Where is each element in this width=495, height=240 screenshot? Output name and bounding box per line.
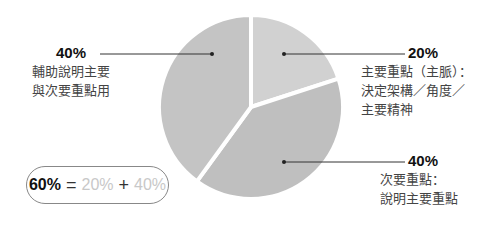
leader-dot-20 [282, 52, 286, 56]
leader-dot-40-right [282, 160, 286, 164]
formula-plus: + [119, 175, 130, 196]
label-secondary-line1: 次要重點： [380, 170, 495, 189]
label-secondary-pct: 40% [380, 151, 495, 170]
formula-box: 60% = 20% + 40% [26, 166, 169, 204]
label-main-line1: 主要重點（主脈）： [361, 62, 491, 81]
formula-a: 20% [81, 176, 113, 194]
label-main-line2: 決定架構／角度／ [361, 81, 491, 100]
formula-total: 60% [29, 176, 61, 194]
label-supporting-pct: 40% [30, 43, 112, 62]
formula-equals: = [66, 175, 77, 196]
label-main-line3: 主要精神 [361, 100, 491, 119]
formula-b: 40% [134, 176, 166, 194]
label-supporting: 40% 輔助說明主要 與次要重點用 [30, 43, 112, 100]
label-secondary-line2: 說明主要重點 [380, 189, 495, 208]
label-secondary: 40% 次要重點： 說明主要重點 [380, 151, 495, 208]
leader-dot-40-left [210, 52, 214, 56]
label-main: 20% 主要重點（主脈）： 決定架構／角度／ 主要精神 [361, 43, 491, 119]
label-main-pct: 20% [361, 43, 491, 62]
label-supporting-line1: 輔助說明主要 [30, 62, 112, 81]
label-supporting-line2: 與次要重點用 [30, 81, 112, 100]
